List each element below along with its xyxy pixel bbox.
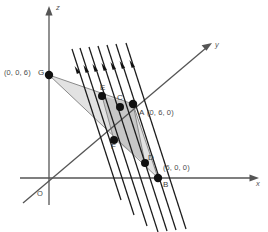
point-c-label: C bbox=[117, 94, 123, 102]
point-g-coord-label: (0, 0, 6) bbox=[4, 69, 31, 77]
z-axis-label: z bbox=[56, 4, 60, 12]
origin-label: O bbox=[37, 190, 43, 198]
point-dot-a bbox=[129, 100, 137, 108]
point-dot-g bbox=[45, 71, 53, 79]
point-b-label: B bbox=[163, 181, 168, 189]
point-g-label: G bbox=[38, 69, 44, 77]
point-dot-c bbox=[116, 103, 124, 111]
y-axis-label: y bbox=[215, 41, 219, 49]
point-a-coord-label: (0, 6, 0) bbox=[147, 109, 174, 117]
point-a-label: A bbox=[139, 109, 144, 117]
point-b-coord-label: (6, 0, 0) bbox=[163, 164, 190, 172]
z-axis-arrowhead bbox=[45, 6, 52, 16]
x-axis-label: x bbox=[256, 180, 260, 188]
point-dot-e bbox=[98, 92, 106, 100]
point-dot-b bbox=[154, 174, 162, 182]
point-d-label: D bbox=[148, 154, 154, 162]
point-e-label: E bbox=[100, 84, 105, 92]
direction-arrowheads bbox=[75, 60, 135, 74]
hatch-line bbox=[98, 46, 158, 232]
coordinate-figure: z y x O (0, 0, 6) G A (0, 6, 0) (6, 0, 0… bbox=[0, 0, 268, 232]
point-f-label: F bbox=[111, 143, 116, 151]
